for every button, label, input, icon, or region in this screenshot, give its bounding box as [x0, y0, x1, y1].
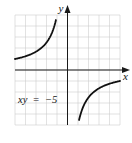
- x-axis-label: x: [122, 70, 128, 82]
- y-axis-arrow: [65, 5, 71, 13]
- equation-label: xy = −5: [17, 94, 57, 105]
- hyperbola-chart: x y xy = −5: [0, 0, 132, 143]
- y-axis-label: y: [58, 2, 64, 14]
